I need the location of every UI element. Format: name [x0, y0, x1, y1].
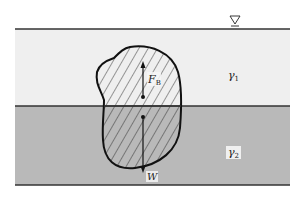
weight-label: W: [147, 171, 158, 182]
buoyancy-diagram: FB W γ1 γ2: [0, 0, 298, 197]
free-surface-symbol-icon: [230, 16, 240, 26]
